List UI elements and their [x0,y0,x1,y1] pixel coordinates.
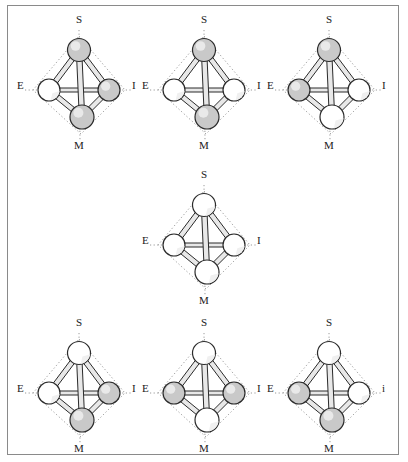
tetrahedron-model-2: SMEI [141,14,267,154]
vertex-label-i: I [382,80,386,91]
sphere-vertex-M-highlight [198,108,208,118]
vertex-label-i: I [257,80,261,91]
sphere-vertex-I [98,382,120,404]
tetrahedron-model-4: SMEI [141,169,267,309]
sphere-vertex-I [98,79,120,101]
tetrahedron-model-3: SMEI [266,14,392,154]
vertex-label-m: M [16,140,142,151]
vertex-label-m: M [16,443,142,454]
sphere-vertex-I [348,382,370,404]
sphere-vertex-M-highlight [73,411,83,421]
vertex-label-e: E [142,383,149,394]
sphere-vertex-S [193,342,216,365]
sphere-vertex-E-highlight [166,385,175,394]
vertex-label-m: M [141,295,267,306]
tetrahedron-model-5: SMEI [16,317,142,457]
tetrahedron-drawing-6 [141,317,267,457]
sphere-vertex-I [223,79,245,101]
tetrahedron-drawing-1 [16,14,142,154]
vertex-label-e: E [142,80,149,91]
sphere-vertex-E-highlight [291,82,300,91]
sphere-vertex-S [318,39,341,62]
vertex-label-e: E [142,235,149,246]
sphere-vertex-S-highlight [196,41,206,51]
sphere-vertex-M [320,408,344,432]
sphere-vertex-S-highlight [71,41,81,51]
sphere-vertex-I [348,79,370,101]
sphere-vertex-M [195,260,219,284]
sphere-vertex-E [163,382,185,404]
sphere-vertex-E [288,79,310,101]
tetrahedron-drawing-5 [16,317,142,457]
sphere-vertex-I-highlight [101,385,110,394]
tetrahedron-model-6: SMEI [141,317,267,457]
vertex-label-s: S [141,14,267,25]
figure-border-frame: SMEISMEISMEISMEISMEISMEISMEi [7,5,399,455]
sphere-vertex-S [68,39,91,62]
tetrahedron-model-1: SMEI [16,14,142,154]
sphere-vertex-M-highlight [73,108,83,118]
vertex-label-e: E [267,383,274,394]
sphere-vertex-E [163,234,185,256]
sphere-vertex-S [318,342,341,365]
sphere-vertex-E [288,382,310,404]
sphere-vertex-M [320,105,344,129]
vertex-label-s: S [141,317,267,328]
sphere-vertex-S [68,342,91,365]
vertex-label-e: E [267,80,274,91]
vertex-label-s: S [16,317,142,328]
tetrahedron-drawing-2 [141,14,267,154]
tetrahedron-drawing-4 [141,169,267,309]
tetrahedron-drawing-7 [266,317,392,457]
vertex-label-i: I [257,235,261,246]
sphere-vertex-I [223,382,245,404]
vertex-label-e: E [17,80,24,91]
sphere-vertex-E [38,79,60,101]
sphere-vertex-M [195,408,219,432]
vertex-label-m: M [141,140,267,151]
tetrahedron-drawing-3 [266,14,392,154]
vertex-label-s: S [16,14,142,25]
vertex-label-m: M [141,443,267,454]
vertex-label-s: S [266,317,392,328]
sphere-vertex-M-highlight [323,411,333,421]
sphere-vertex-M [70,408,94,432]
sphere-vertex-M [70,105,94,129]
sphere-vertex-S [193,39,216,62]
vertex-label-s: S [141,169,267,180]
sphere-vertex-E [38,382,60,404]
sphere-vertex-I-highlight [101,82,110,91]
sphere-vertex-M [195,105,219,129]
sphere-vertex-E-highlight [291,385,300,394]
vertex-label-i: I [257,383,261,394]
vertex-label-s: S [266,14,392,25]
sphere-vertex-S [193,194,216,217]
vertex-label-m: M [266,140,392,151]
tetrahedron-model-7: SMEi [266,317,392,457]
vertex-label-m: M [266,443,392,454]
vertex-label-i: I [132,80,136,91]
sphere-vertex-E [163,79,185,101]
vertex-label-i: i [382,383,385,394]
sphere-vertex-S-highlight [321,41,331,51]
sphere-vertex-I [223,234,245,256]
vertex-label-e: E [17,383,24,394]
vertex-label-i: I [132,383,136,394]
sphere-vertex-I-highlight [226,385,235,394]
